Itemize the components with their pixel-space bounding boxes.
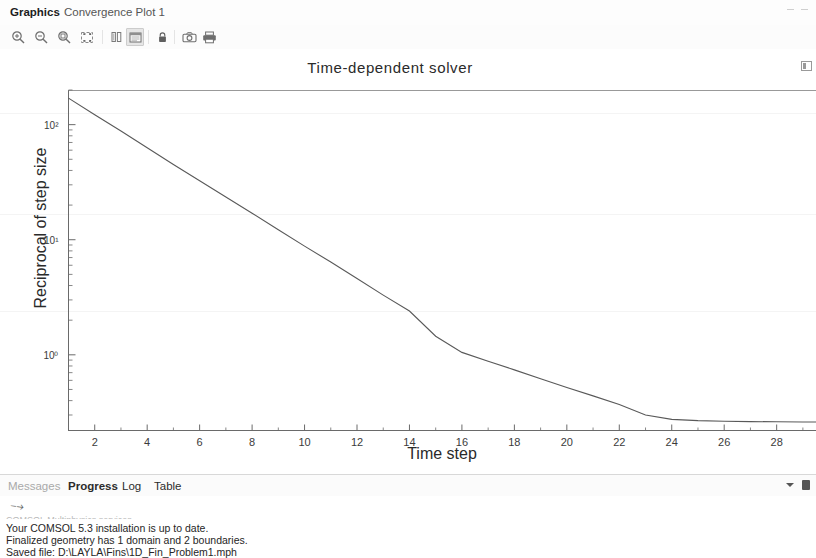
zoom-in-icon[interactable] (9, 28, 27, 46)
plot-frame (68, 90, 816, 431)
x-tick-label: 2 (92, 436, 98, 448)
x-tick-label: 8 (249, 436, 255, 448)
plot-corner-icon[interactable] (801, 57, 812, 67)
log-line: Finalized geometry has 1 domain and 2 bo… (6, 534, 248, 546)
zoom-extents-icon[interactable] (78, 28, 96, 46)
x-tick-label: 6 (197, 436, 203, 448)
convergence-plot-canvas[interactable]: Time-dependent solver Reciprocal of step… (0, 49, 816, 474)
camera-icon[interactable] (180, 28, 198, 46)
panel-menu-icon[interactable] (802, 480, 810, 490)
y-tick-label: 10¹ (44, 235, 59, 246)
x-tick-label: 4 (144, 436, 150, 448)
y-axis-tick-labels: 10⁰10¹10² (43, 120, 59, 361)
toolbar-separator-3 (174, 30, 175, 44)
graphics-toolbar (0, 25, 816, 50)
x-tick-label: 20 (561, 436, 573, 448)
tab-log[interactable]: Log (122, 479, 141, 493)
plot-columns-icon[interactable] (108, 28, 126, 46)
x-tick-label: 24 (666, 436, 678, 448)
tab-progress[interactable]: Progress (68, 479, 118, 493)
x-tick-label: 16 (456, 436, 468, 448)
x-axis-ticks (69, 425, 803, 431)
tab-table[interactable]: Table (154, 479, 182, 493)
x-tick-label: 18 (508, 436, 520, 448)
graphics-window: Graphics Convergence Plot 1 (0, 0, 816, 474)
x-tick-label: 28 (771, 436, 783, 448)
log-line: Saved file: D:\LAYLA\Fins\1D_Fin_Problem… (6, 546, 237, 558)
log-line: COMSOL Multiphysics services (6, 514, 132, 519)
plot-image-icon[interactable] (126, 28, 144, 46)
graphics-tab-strip: Graphics Convergence Plot 1 (0, 0, 816, 26)
text-cursor-icon: ⤍ (9, 497, 25, 515)
chevron-down-icon[interactable] (786, 483, 794, 487)
log-output[interactable]: ⤍ COMSOL Multiphysics services Your COMS… (0, 496, 816, 558)
bottom-panel-tab-strip: Messages Progress Log Table (0, 475, 816, 496)
log-line: Your COMSOL 5.3 installation is up to da… (6, 522, 208, 534)
lock-icon[interactable] (153, 28, 171, 46)
zoom-box-icon[interactable] (55, 28, 73, 46)
minimize-icon[interactable] (787, 9, 794, 10)
tab-messages[interactable]: Messages (8, 479, 60, 493)
y-tick-label: 10² (44, 120, 59, 131)
x-tick-label: 14 (403, 436, 415, 448)
x-tick-label: 10 (298, 436, 310, 448)
plot-svg: 10⁰10¹10² 246810121416182022242628 (0, 49, 816, 474)
toolbar-separator-2 (148, 30, 149, 44)
window-controls[interactable] (778, 4, 812, 16)
y-tick-label: 10⁰ (43, 350, 58, 361)
tab-convergence-plot-1[interactable]: Convergence Plot 1 (64, 5, 165, 19)
convergence-line (69, 98, 816, 422)
zoom-out-icon[interactable] (32, 28, 50, 46)
x-tick-label: 12 (351, 436, 363, 448)
y-axis-ticks (69, 90, 76, 415)
x-tick-label: 22 (613, 436, 625, 448)
close-icon[interactable] (801, 9, 808, 10)
bottom-panel: Messages Progress Log Table ⤍ COMSOL Mul… (0, 474, 816, 558)
tab-graphics[interactable]: Graphics (10, 5, 60, 19)
print-icon[interactable] (200, 28, 218, 46)
x-axis-tick-labels: 246810121416182022242628 (92, 436, 783, 448)
x-tick-label: 26 (718, 436, 730, 448)
toolbar-separator (102, 30, 103, 44)
